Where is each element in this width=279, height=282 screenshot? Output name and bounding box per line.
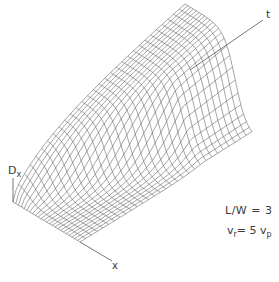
mesh-line [49, 33, 221, 224]
mesh-line [59, 127, 126, 214]
mesh-line [47, 141, 114, 221]
mesh-line [185, 4, 252, 132]
mesh-line [38, 20, 210, 217]
x-axis-label: x [112, 261, 118, 271]
mesh-line [52, 38, 224, 225]
mesh-line [55, 46, 227, 227]
surface-plot [0, 0, 279, 282]
mesh-line [24, 11, 196, 209]
mesh-line [41, 22, 213, 218]
mesh-line [72, 114, 244, 237]
mesh-line [93, 90, 160, 193]
surface-mesh [13, 4, 252, 242]
ratio-annotation: L/W = 3 [225, 205, 272, 216]
t-axis-label: t [266, 9, 270, 20]
mesh-line [21, 9, 193, 207]
mesh-line [33, 16, 205, 214]
mesh-line [179, 9, 246, 135]
mesh-line [25, 174, 92, 235]
mesh-line [42, 148, 109, 224]
wireframe-figure: Dx x t L/W = 3 vr= 5 vp [0, 0, 279, 282]
velocity-annotation: vr= 5 vp [227, 225, 272, 236]
dx-axis-label: Dx [8, 165, 21, 176]
mesh-line [66, 93, 238, 234]
x-axis-line [80, 242, 112, 261]
